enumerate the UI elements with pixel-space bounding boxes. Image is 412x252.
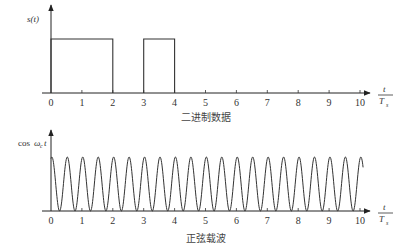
x-tick-label: 3 [141, 97, 146, 108]
bottom-y-axis-label: cos ω c t [18, 138, 47, 149]
svg-text:s: s [386, 102, 389, 108]
top-y-axis-label: s(t) [27, 14, 39, 24]
binary-pulse-waveform [51, 39, 175, 93]
diagram-canvas: 012345678910 s(t) t T s 二进制数据 0123456789… [0, 0, 412, 252]
x-tick-label: 7 [265, 97, 270, 108]
x-tick-label: 7 [265, 215, 270, 226]
x-tick-label: 10 [355, 97, 365, 108]
x-tick-label: 2 [110, 215, 115, 226]
x-tick-label: 10 [355, 215, 365, 226]
top-caption: 二进制数据 [181, 111, 231, 123]
x-tick-label: 2 [110, 97, 115, 108]
x-tick-label: 0 [49, 97, 54, 108]
svg-text:cos: cos [18, 138, 30, 148]
x-tick-label: 9 [327, 97, 332, 108]
x-tick-label: 4 [172, 97, 177, 108]
svg-text:t: t [44, 138, 47, 148]
x-tick-label: 4 [172, 215, 177, 226]
svg-text:t: t [383, 202, 386, 212]
x-tick-label: 8 [296, 97, 301, 108]
svg-text:t: t [383, 84, 386, 94]
carrier-chart: 012345678910 cos ω c t t T s 正弦载波 [18, 130, 393, 244]
bottom-x-axis-label: t T s [378, 202, 393, 226]
x-tick-label: 5 [203, 215, 208, 226]
svg-text:T: T [379, 214, 385, 224]
x-tick-label: 1 [79, 97, 84, 108]
x-tick-label: 6 [234, 215, 239, 226]
bottom-caption: 正弦载波 [186, 232, 226, 244]
x-tick-label: 9 [327, 215, 332, 226]
x-tick-label: 0 [49, 215, 54, 226]
x-tick-label: 8 [296, 215, 301, 226]
binary-data-chart: 012345678910 s(t) t T s 二进制数据 [27, 5, 393, 123]
x-tick-label: 3 [141, 215, 146, 226]
svg-text:T: T [379, 96, 385, 106]
x-tick-label: 6 [234, 97, 239, 108]
top-x-axis-label: t T s [378, 84, 393, 108]
svg-text:s: s [386, 220, 389, 226]
x-tick-label: 1 [79, 215, 84, 226]
svg-text:c: c [40, 143, 43, 149]
carrier-waveform [51, 157, 363, 211]
x-tick-label: 5 [203, 97, 208, 108]
